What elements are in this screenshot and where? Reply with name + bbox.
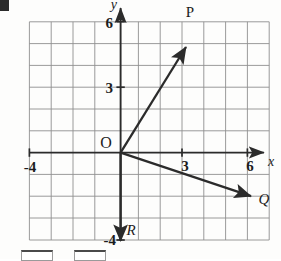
vector-label-q: Q <box>259 191 270 207</box>
vector-label-p: P <box>186 4 194 20</box>
y-axis-label: y <box>109 0 118 12</box>
axis-lines <box>29 8 264 240</box>
tick-label-x-6: 6 <box>246 158 254 174</box>
vector-label-r: R <box>125 222 135 238</box>
tick-label-y-3: 3 <box>106 80 114 96</box>
tick-label-y-neg4: -4 <box>104 232 117 248</box>
tick-label-x-3: 3 <box>181 158 189 174</box>
answer-box-2[interactable] <box>74 250 106 261</box>
grid-lines <box>29 22 269 240</box>
tick-label-y-6: 6 <box>106 15 114 31</box>
answer-box-1[interactable] <box>21 250 53 261</box>
x-axis-label: x <box>267 154 275 169</box>
tick-label-x-neg4: -4 <box>24 159 37 175</box>
figure-text: 6 3 -4 -4 3 6 x y O P Q R <box>24 0 275 248</box>
page-corner-mark <box>0 0 9 11</box>
origin-label: O <box>100 134 112 151</box>
vector-p <box>121 47 186 153</box>
